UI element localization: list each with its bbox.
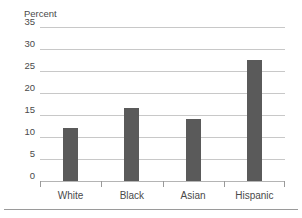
x-axis-tick [101,181,102,187]
y-axis-tick-label: 30 [24,38,35,49]
bar-hispanic [247,60,262,181]
bar-black [124,108,139,181]
x-axis-tick [224,181,225,187]
x-axis-label-white: White [58,189,84,202]
x-axis-label-asian: Asian [181,189,206,202]
y-axis-tick-label: 10 [24,126,35,137]
y-axis-tick-label: 0 [30,170,35,181]
x-axis-tick [163,181,164,187]
x-axis: WhiteBlackAsianHispanic [40,181,285,207]
y-axis-tick-label: 5 [30,148,35,159]
x-axis-tick [284,181,285,187]
bar-asian [186,119,201,181]
x-axis-tick [40,181,41,187]
plot-area: 05101520253035 [40,27,285,181]
bar-white [63,128,78,181]
bottom-divider [4,209,298,210]
bars-group [40,27,285,181]
bar-chart-figure: Percent 05101520253035 WhiteBlackAsianHi… [0,0,302,218]
x-axis-label-hispanic: Hispanic [235,189,273,202]
y-axis-tick-label: 15 [24,104,35,115]
x-axis-label-black: Black [120,189,144,202]
y-axis-tick-label: 35 [24,16,35,27]
y-axis-tick-label: 25 [24,60,35,71]
y-axis-tick-label: 20 [24,82,35,93]
